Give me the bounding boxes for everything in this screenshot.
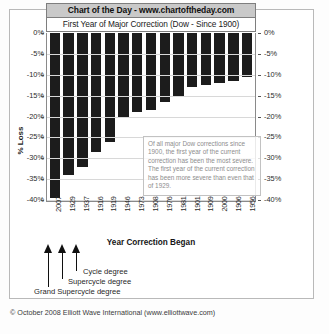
bar-1908 (146, 33, 156, 110)
y-tick-mark (258, 117, 261, 118)
x-label-slot: 1946 (116, 203, 130, 235)
y-tick-label-right: -10% (264, 70, 290, 79)
y-tick-mark (258, 33, 261, 34)
gridline (47, 75, 255, 76)
y-tick-mark (41, 54, 44, 55)
x-label-slot: 1919 (102, 203, 116, 235)
y-tick-mark (258, 96, 261, 97)
y-axis-right: % Loss 0%-5%-10%-15%-20%-25%-30%-35%-40% (258, 33, 288, 202)
x-label-slot: 1916 (89, 203, 103, 235)
bar-1976 (160, 33, 170, 102)
label-grand-supercycle-degree: Grand Supercycle degree (34, 287, 121, 296)
y-tick-label-right: -40% (264, 195, 290, 204)
gridline (47, 117, 255, 118)
y-tick-mark (258, 54, 261, 55)
y-tick-label-right: -5% (264, 49, 290, 58)
bar-1909 (201, 33, 211, 85)
x-label-slot: 1981 (172, 203, 186, 235)
y-tick-mark (41, 33, 44, 34)
x-label-slot: 1937 (75, 203, 89, 235)
x-label-slot: 2007 (47, 203, 61, 235)
y-tick-label-right: -30% (264, 153, 290, 162)
label-supercycle-degree: Supercycle degree (68, 277, 131, 286)
y-tick-mark (41, 137, 44, 138)
y-tick-label-right: -35% (264, 174, 290, 183)
y-tick-mark (41, 200, 44, 201)
title-banner: Chart of the Day - www.chartoftheday.com… (46, 3, 256, 32)
annotation-box: Of all major Dow corrections since 1900,… (143, 136, 261, 196)
bar-1916 (91, 33, 101, 152)
bar-1956 (242, 33, 252, 77)
gridline (47, 96, 255, 97)
chart-title: First Year of Major Correction (Dow - Si… (46, 18, 256, 32)
y-tick-mark (41, 75, 44, 76)
x-label-slot: 1909 (199, 203, 213, 235)
x-label-slot: 1929 (61, 203, 75, 235)
x-label-slot: 1956 (241, 203, 255, 235)
y-tick-mark (258, 75, 261, 76)
x-label-slot: 1908 (144, 203, 158, 235)
y-tick-mark (41, 158, 44, 159)
y-tick-mark (258, 200, 261, 201)
bar-1981 (173, 33, 183, 96)
x-tick-label: 1956 (248, 196, 257, 211)
y-tick-label-right: -15% (264, 91, 290, 100)
chart-page: Chart of the Day - www.chartoftheday.com… (0, 0, 329, 334)
x-label-slot: 1901 (186, 203, 200, 235)
copyright-footer: © October 2008 Elliott Wave Internationa… (10, 308, 215, 317)
y-axis-left: % Loss 0%-5%-10%-15%-20%-25%-30%-35%-40% (14, 33, 44, 202)
y-tick-mark (41, 179, 44, 180)
x-label-slot: 1906 (227, 203, 241, 235)
bar-2007 (50, 33, 60, 198)
x-label-slot: 1976 (158, 203, 172, 235)
chart-source-title: Chart of the Day - www.chartoftheday.com (46, 3, 256, 18)
x-label-slot: 2000 (213, 203, 227, 235)
label-cycle-degree: Cycle degree (83, 267, 128, 276)
bar-1973 (132, 33, 142, 112)
bar-1919 (105, 33, 115, 142)
y-tick-label-right: -20% (264, 112, 290, 121)
bar-1901 (187, 33, 197, 87)
y-tick-label-right: 0% (264, 28, 290, 37)
x-label-slot: 1973 (130, 203, 144, 235)
y-tick-mark (41, 117, 44, 118)
x-axis-tick-labels: 2007192919371916191919461973190819761981… (46, 203, 256, 235)
y-tick-mark (41, 96, 44, 97)
y-tick-label-right: -25% (264, 132, 290, 141)
gridline (47, 54, 255, 55)
